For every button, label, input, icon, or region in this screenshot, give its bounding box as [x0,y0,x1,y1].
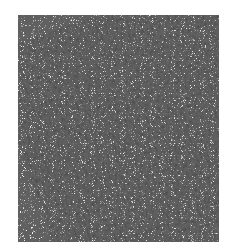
fabric-texture [18,15,219,242]
fabric-swatch [18,15,219,242]
